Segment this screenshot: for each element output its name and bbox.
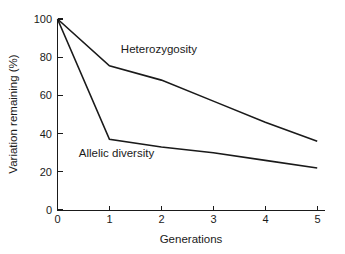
chart-figure: 100 80 60 40 20 0 0 1 2 3 4 5 Generation… (0, 0, 345, 254)
series-label-allelic-diversity: Allelic diversity (79, 147, 155, 159)
y-axis-title: Variation remaining (%) (7, 54, 19, 173)
x-axis-title: Generations (160, 233, 223, 245)
x-tick-label-1: 1 (106, 213, 112, 225)
y-tick-label-100: 100 (34, 13, 52, 25)
y-tick-label-60: 60 (40, 89, 52, 101)
y-tick-label-40: 40 (40, 128, 52, 140)
x-tick-label-5: 5 (314, 213, 320, 225)
y-tick-label-0: 0 (46, 204, 52, 216)
y-tick-label-80: 80 (40, 51, 52, 63)
x-tick-label-3: 3 (210, 213, 216, 225)
x-tick-label-4: 4 (262, 213, 268, 225)
line-chart: 100 80 60 40 20 0 0 1 2 3 4 5 Generation… (0, 0, 345, 254)
x-tick-label-2: 2 (158, 213, 164, 225)
x-tick-label-0: 0 (54, 213, 60, 225)
y-tick-label-20: 20 (40, 166, 52, 178)
series-label-heterozygosity: Heterozygosity (121, 43, 197, 55)
